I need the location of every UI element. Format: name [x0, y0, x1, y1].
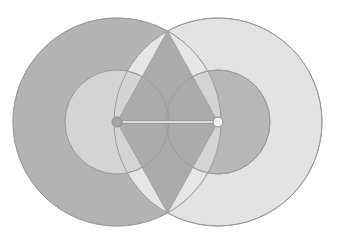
right-center-dot — [213, 117, 223, 127]
geometry-diagram — [0, 0, 339, 233]
left-center-dot — [112, 117, 122, 127]
